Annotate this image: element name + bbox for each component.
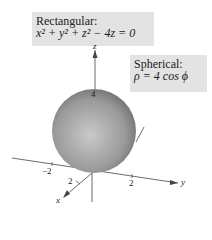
z-axis-label: z bbox=[93, 41, 97, 51]
y-axis-label: y bbox=[181, 177, 185, 187]
spherical-equation-box: Spherical: ρ = 4 cos ϕ bbox=[130, 55, 207, 92]
x-tick-2: 2 bbox=[68, 176, 73, 186]
z-tick-4: 4 bbox=[91, 89, 96, 99]
rectangular-equation: x² + y² + z² − 4z = 0 bbox=[36, 27, 150, 39]
y-tick-neg2: −2 bbox=[42, 166, 52, 176]
x-axis-label: x bbox=[56, 195, 60, 205]
spherical-equation: ρ = 4 cos ϕ bbox=[134, 70, 203, 82]
sphere bbox=[52, 89, 136, 173]
y-tick-2: 2 bbox=[129, 178, 134, 188]
